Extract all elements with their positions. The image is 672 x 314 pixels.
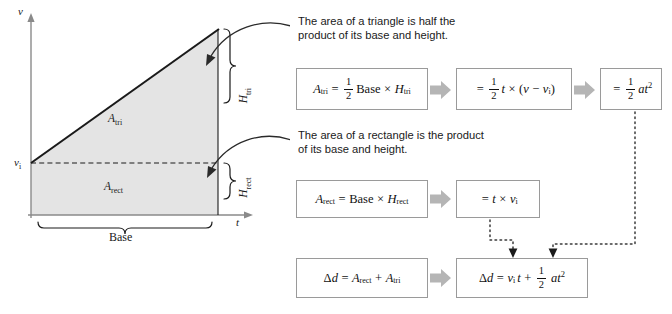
dotted-path-rect-to-sum — [490, 220, 513, 250]
dotted-connectors — [0, 0, 672, 314]
dotted-arrowhead-tri — [549, 249, 558, 259]
velocity-time-graph-derivation-figure: v t vi Atri Arect Htri Hrect Base The ar… — [0, 0, 672, 314]
dotted-path-tri-to-sum — [553, 112, 635, 250]
dotted-arrowhead-rect — [509, 249, 518, 259]
